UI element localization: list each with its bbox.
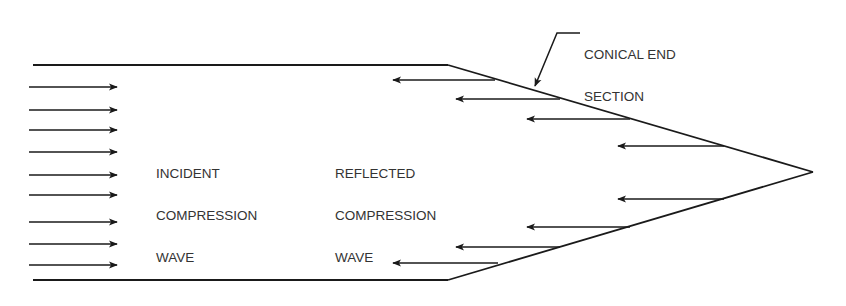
cone-lower-edge xyxy=(448,172,813,280)
incident-wave-label: INCIDENT COMPRESSION WAVE xyxy=(156,139,257,293)
conical-end-label: CONICAL END SECTION xyxy=(584,20,676,132)
label-line: COMPRESSION xyxy=(335,209,436,223)
reflected-wave-label: REFLECTED COMPRESSION WAVE xyxy=(335,139,436,293)
label-line: SECTION xyxy=(584,90,676,104)
label-line: REFLECTED xyxy=(335,167,436,181)
label-line: WAVE xyxy=(335,251,436,265)
incident-arrows xyxy=(29,87,117,265)
label-line: WAVE xyxy=(156,251,257,265)
label-line: COMPRESSION xyxy=(156,209,257,223)
label-line: CONICAL END xyxy=(584,48,676,62)
label-line: INCIDENT xyxy=(156,167,257,181)
leader-arrow-icon xyxy=(535,33,580,86)
diagram-canvas: CONICAL END SECTION INCIDENT COMPRESSION… xyxy=(0,0,846,306)
